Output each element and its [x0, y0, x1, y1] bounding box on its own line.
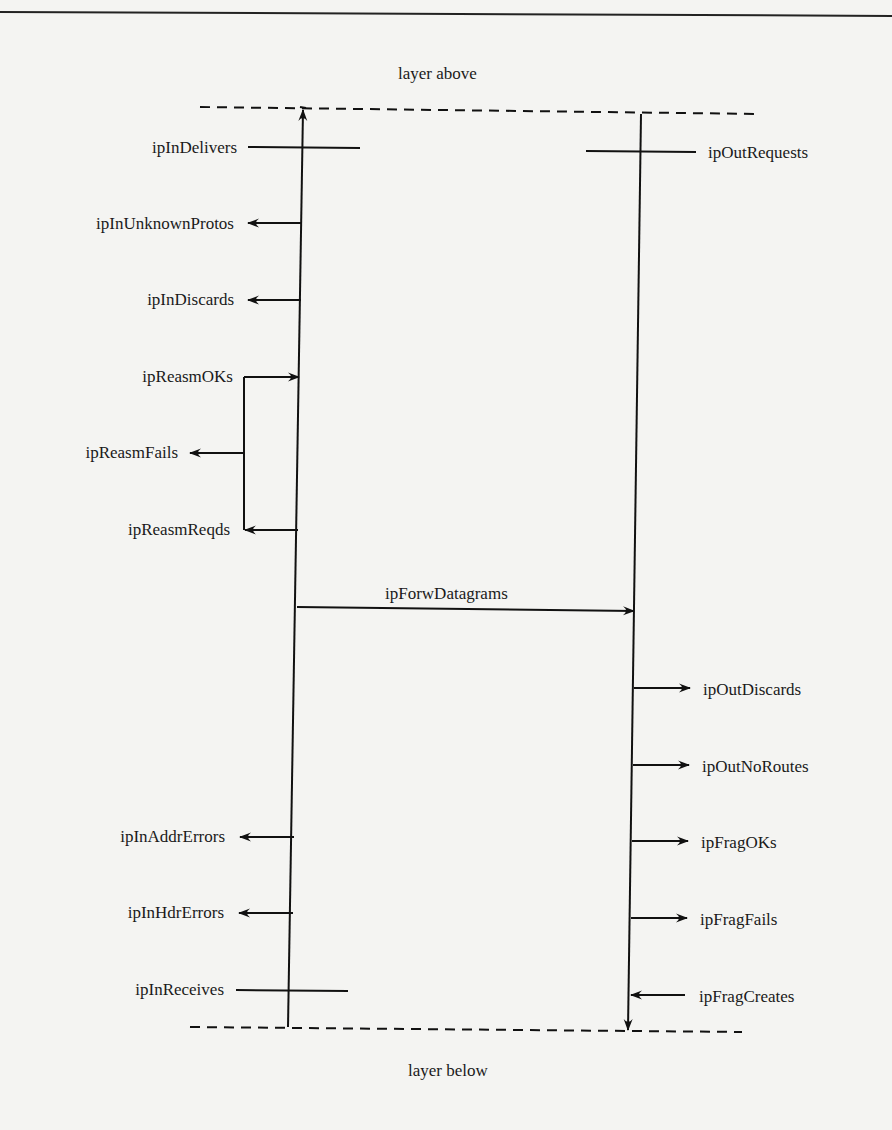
counter-ipOutDiscards: ipOutDiscards — [703, 680, 801, 700]
counter-ipReasmFails: ipReasmFails — [85, 443, 178, 463]
counter-ipForwDatagrams: ipForwDatagrams — [385, 584, 508, 604]
counter-ipInHdrErrors: ipInHdrErrors — [128, 903, 224, 923]
counter-ipFragCreates: ipFragCreates — [699, 987, 794, 1007]
ip-counters-flow-diagram — [0, 0, 892, 1130]
counter-ipInDiscards: ipInDiscards — [147, 290, 234, 310]
upper-layer-boundary — [200, 107, 760, 114]
counter-ipFragFails: ipFragFails — [700, 910, 777, 930]
lower-layer-boundary — [190, 1027, 742, 1032]
counter-ipInAddrErrors: ipInAddrErrors — [120, 827, 225, 847]
counter-ipOutRequests: ipOutRequests — [708, 143, 808, 163]
counter-ipInUnknownProtos: ipInUnknownProtos — [96, 214, 234, 234]
counter-ipInDelivers: ipInDelivers — [152, 138, 237, 158]
counter-ipReasmReqds: ipReasmReqds — [128, 520, 230, 540]
output-path-line — [628, 114, 641, 1030]
layer-above-label: layer above — [398, 64, 477, 84]
counter-ipReasmOKs: ipReasmOKs — [142, 367, 233, 387]
counter-ipFragOKs: ipFragOKs — [701, 833, 777, 853]
input-path-line — [288, 110, 303, 1027]
counter-ipInReceives: ipInReceives — [135, 980, 224, 1000]
layer-below-label: layer below — [408, 1061, 488, 1081]
counter-ipOutNoRoutes: ipOutNoRoutes — [702, 757, 809, 777]
